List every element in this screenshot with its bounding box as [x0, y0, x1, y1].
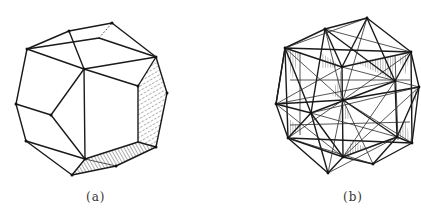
caption-a: (a)	[86, 190, 106, 204]
polyhedron-a	[15, 22, 169, 177]
hatched-face-right	[138, 57, 167, 147]
figure-canvas	[0, 0, 421, 221]
caption-b: (b)	[343, 190, 363, 204]
polyhedron-b	[275, 17, 421, 175]
